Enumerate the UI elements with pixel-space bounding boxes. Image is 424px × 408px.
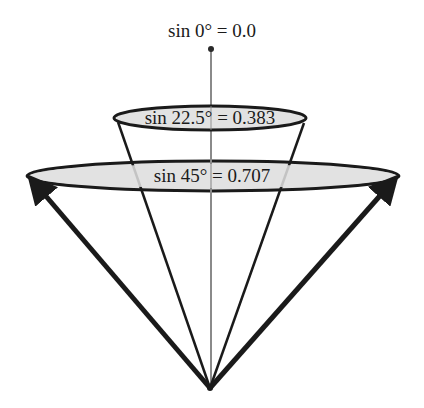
apex-point [207, 385, 213, 391]
label-sin-0: sin 0° = 0.0 [168, 21, 256, 40]
right-arrow [210, 181, 393, 388]
label-sin-45: sin 45° = 0.707 [154, 166, 271, 185]
axis-top-dot [208, 46, 214, 52]
left-arrow [33, 181, 210, 388]
cone-projection-diagram [0, 0, 424, 408]
label-sin-22-5: sin 22.5° = 0.383 [145, 108, 276, 127]
